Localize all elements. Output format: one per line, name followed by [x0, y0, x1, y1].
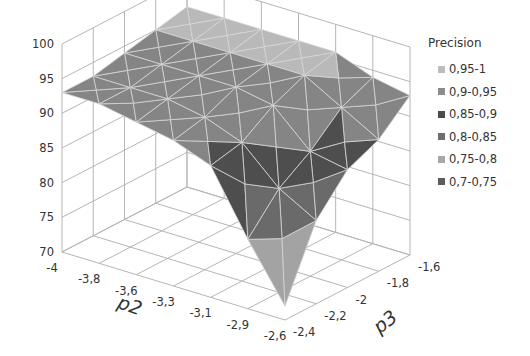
legend-item: 0,75-0,8 [428, 148, 497, 171]
legend-label: 0,85-0,9 [449, 107, 497, 121]
legend-label: 0,8-0,85 [449, 130, 497, 144]
p2-tick-label: -2,6 [264, 329, 286, 343]
legend-swatch [438, 88, 445, 95]
z-tick-label: 90 [39, 106, 54, 120]
surface-facet [336, 52, 373, 78]
p3-tick-label: -2,2 [324, 309, 346, 323]
p2-tick-label: -3,8 [78, 272, 100, 286]
surface-facet [345, 140, 379, 170]
legend-title: Precision [428, 36, 497, 50]
z-tick-label: 85 [39, 141, 54, 155]
legend-swatch [438, 178, 445, 185]
legend-swatch [438, 66, 445, 73]
z-tick-label: 75 [39, 210, 54, 224]
legend-swatch [438, 133, 445, 140]
legend-item: 0,8-0,85 [428, 126, 497, 149]
legend-label: 0,7-0,75 [449, 175, 497, 189]
legend-item: 0,85-0,9 [428, 103, 497, 126]
surface-facet [62, 76, 96, 92]
legend-label: 0,9-0,95 [449, 85, 497, 99]
legend-label: 0,75-0,8 [449, 152, 497, 166]
legend-item: 0,9-0,95 [428, 81, 497, 104]
legend-swatch [438, 156, 445, 163]
z-tick-label: 95 [39, 72, 54, 86]
p3-tick-label: -2 [356, 293, 367, 307]
p2-tick-label: -3,3 [152, 295, 174, 309]
p2-tick-label: -3,1 [189, 306, 211, 320]
legend-item: 0,7-0,75 [428, 171, 497, 194]
p2-tick-label: -4 [46, 261, 57, 275]
p3-tick-label: -2,4 [293, 325, 315, 339]
p3-axis-title: p3 [368, 305, 401, 338]
legend: Precision 0,95-10,9-0,950,85-0,90,8-0,85… [428, 36, 497, 193]
p2-tick-label: -2,9 [227, 318, 249, 332]
z-tick-label: 70 [39, 245, 54, 259]
floor-grid-line [125, 220, 348, 288]
legend-swatch [438, 111, 445, 118]
surface-facet [136, 120, 173, 141]
legend-label: 0,95-1 [449, 62, 486, 76]
p3-tick-label: -1,6 [418, 260, 440, 274]
p3-tick-label: -1,8 [387, 276, 409, 290]
surface-facet [174, 140, 211, 165]
legend-item: 0,95-1 [428, 58, 497, 81]
z-tick-label: 100 [32, 37, 54, 51]
z-tick-label: 80 [39, 176, 54, 190]
surface-facet [248, 239, 285, 307]
